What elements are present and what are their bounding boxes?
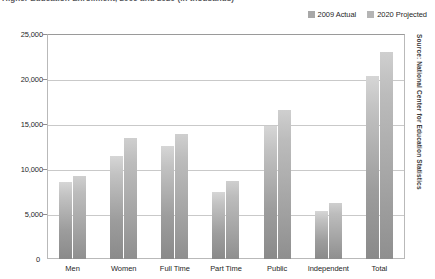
source-note-text: Source: National Center for Education St… bbox=[416, 34, 423, 190]
y-axis-zero-label: 0 bbox=[36, 255, 40, 264]
gridline bbox=[48, 170, 404, 171]
gridline bbox=[48, 215, 404, 216]
gridline bbox=[48, 125, 404, 126]
bar-chart: Higher Education Enrollment, 2009 and 20… bbox=[0, 0, 435, 279]
legend-swatch-icon bbox=[367, 11, 374, 18]
x-axis-tick-label: Part Time bbox=[200, 264, 251, 273]
chart-legend: 2009 Actual2020 Projected bbox=[308, 9, 427, 19]
legend-item: 2020 Projected bbox=[367, 10, 427, 19]
gridline bbox=[48, 80, 404, 81]
x-axis-tick-label: Independent bbox=[303, 264, 354, 273]
x-axis-tick-label: Public bbox=[252, 264, 303, 273]
y-axis-tick-label: 25,000 bbox=[21, 30, 43, 39]
x-axis-tick-label: Women bbox=[98, 264, 149, 273]
y-axis: 25,00020,00015,00010,0005,000 bbox=[0, 34, 43, 259]
y-axis-tick-label: 15,000 bbox=[21, 120, 43, 129]
legend-label: 2020 Projected bbox=[377, 10, 427, 19]
y-axis-tick-label: 5,000 bbox=[25, 210, 43, 219]
legend-item: 2009 Actual bbox=[308, 10, 357, 19]
x-axis-tick-label: Total bbox=[354, 264, 405, 273]
chart-title-text: Higher Education Enrollment, 2009 and 20… bbox=[2, 0, 234, 3]
plot-area bbox=[47, 34, 405, 259]
y-axis-tick-label: 10,000 bbox=[21, 165, 43, 174]
source-note: Source: National Center for Education St… bbox=[413, 34, 425, 234]
x-axis-labels: MenWomenFull TimePart TimePublicIndepend… bbox=[47, 264, 405, 273]
x-axis-tick-label: Full Time bbox=[149, 264, 200, 273]
legend-swatch-icon bbox=[308, 11, 315, 18]
legend-label: 2009 Actual bbox=[318, 10, 357, 19]
chart-title-clipped: Higher Education Enrollment, 2009 and 20… bbox=[0, 0, 435, 7]
x-axis-tick-label: Men bbox=[47, 264, 98, 273]
y-axis-tick-label: 20,000 bbox=[21, 75, 43, 84]
